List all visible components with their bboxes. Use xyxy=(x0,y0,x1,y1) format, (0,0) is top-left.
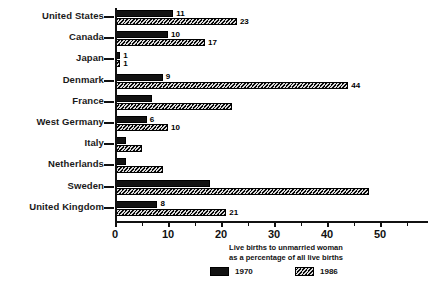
category-tick-dash xyxy=(104,80,114,82)
x-tick-minor xyxy=(142,223,144,226)
x-tick-minor xyxy=(354,223,356,226)
bar-group: 944 xyxy=(115,74,431,92)
bar-group: 821 xyxy=(115,201,431,219)
x-tick-minor xyxy=(248,223,250,226)
category-label: Italy xyxy=(0,138,104,148)
x-tick-label: 0 xyxy=(112,228,118,240)
category-tick-dash xyxy=(104,122,114,124)
bar-1970 xyxy=(115,10,173,17)
bar-group: 1017 xyxy=(115,31,431,49)
category-label: Netherlands xyxy=(0,159,104,169)
bar-1970 xyxy=(115,201,157,208)
x-tick-label: 30 xyxy=(268,228,280,240)
category-tick-dash xyxy=(104,207,114,209)
bar-1970 xyxy=(115,31,168,38)
x-tick-mark xyxy=(221,223,223,227)
category-label: United States xyxy=(0,11,104,21)
category-label: Canada xyxy=(0,32,104,42)
bar-1986 xyxy=(115,18,237,25)
category-label: France xyxy=(0,96,104,106)
x-tick-mark xyxy=(168,223,170,227)
bar-group xyxy=(115,158,431,176)
bar-group xyxy=(115,137,431,155)
x-tick-label: 20 xyxy=(215,228,227,240)
category-tick-dash xyxy=(104,101,114,103)
category-tick-dash xyxy=(104,58,114,60)
bar-value-1986: 23 xyxy=(240,18,249,26)
legend-swatch-1970 xyxy=(210,267,229,276)
legend-label-1970: 1970 xyxy=(235,267,253,277)
x-axis-title-line1: Live births to unmarried woman xyxy=(196,243,376,253)
category-label: Sweden xyxy=(0,181,104,191)
bar-value-1970: 8 xyxy=(160,200,164,208)
category-tick-dash xyxy=(104,16,114,18)
bar-value-1986: 1 xyxy=(123,60,127,68)
category-label: Japan xyxy=(0,53,104,63)
x-tick-label: 50 xyxy=(374,228,386,240)
x-tick-mark xyxy=(274,223,276,227)
x-tick-label: 10 xyxy=(162,228,174,240)
plot-area: 1123101711944610821 xyxy=(115,8,431,220)
category-tick-dash xyxy=(104,164,114,166)
x-tick-minor xyxy=(407,223,409,226)
bar-1986 xyxy=(115,166,163,173)
bar-value-1970: 10 xyxy=(171,31,180,39)
bar-group: 11 xyxy=(115,52,431,70)
category-tick-dash xyxy=(104,186,114,188)
category-axis-labels: United StatesCanadaJapanDenmarkFranceWes… xyxy=(0,8,104,220)
x-axis-title-line2: as a percentage of all live births xyxy=(196,253,376,263)
x-tick-label: 40 xyxy=(321,228,333,240)
bar-1986 xyxy=(115,145,142,152)
bar-1986 xyxy=(115,103,232,110)
x-axis-title: Live births to unmarried woman as a perc… xyxy=(196,243,376,262)
x-tick-mark xyxy=(327,223,329,227)
legend-swatch-1986 xyxy=(295,267,314,276)
bar-value-1970: 9 xyxy=(166,73,170,81)
y-axis-line xyxy=(115,8,117,221)
category-tick-dash xyxy=(104,37,114,39)
category-label: United Kingdom xyxy=(0,202,104,212)
chart-legend: 1970 1986 xyxy=(210,266,400,282)
x-tick-mark xyxy=(115,223,117,227)
bar-chart: United StatesCanadaJapanDenmarkFranceWes… xyxy=(0,0,431,294)
x-tick-minor xyxy=(301,223,303,226)
bar-1986 xyxy=(115,188,369,195)
bar-1986 xyxy=(115,39,205,46)
bar-1986 xyxy=(115,209,226,216)
bar-1986 xyxy=(115,82,348,89)
bar-value-1970: 6 xyxy=(150,116,154,124)
category-label: Denmark xyxy=(0,75,104,85)
bar-group: 610 xyxy=(115,116,431,134)
bar-1970 xyxy=(115,116,147,123)
x-tick-minor xyxy=(195,223,197,226)
bar-1986 xyxy=(115,124,168,131)
bar-1970 xyxy=(115,180,210,187)
legend-label-1986: 1986 xyxy=(320,267,338,277)
bar-1970 xyxy=(115,95,152,102)
bar-value-1986: 17 xyxy=(208,39,217,47)
bar-1970 xyxy=(115,74,163,81)
bar-group xyxy=(115,95,431,113)
bar-group: 1123 xyxy=(115,10,431,28)
bar-group xyxy=(115,180,431,198)
bar-value-1986: 10 xyxy=(171,124,180,132)
category-label: West Germany xyxy=(0,117,104,127)
bar-value-1986: 21 xyxy=(229,209,238,217)
bar-value-1970: 11 xyxy=(176,10,184,18)
bar-value-1986: 44 xyxy=(351,82,360,90)
x-tick-mark xyxy=(380,223,382,227)
category-tick-dash xyxy=(104,143,114,145)
